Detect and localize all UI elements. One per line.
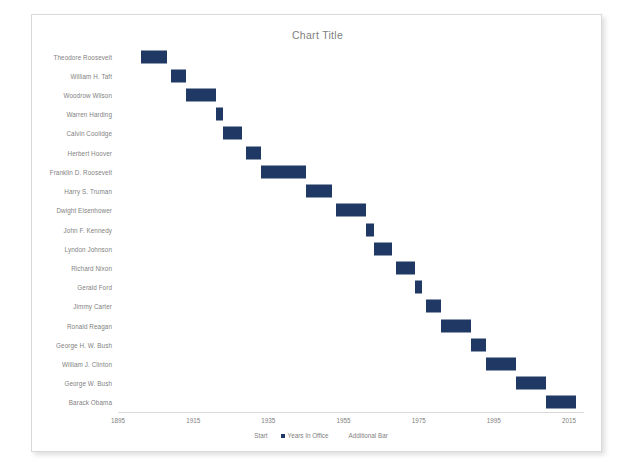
legend-swatch-icon bbox=[342, 434, 346, 438]
bar-years-in-office[interactable] bbox=[366, 223, 374, 236]
bar-years-in-office[interactable] bbox=[486, 357, 516, 370]
category-label: Ronald Reagan bbox=[67, 322, 112, 329]
bar-years-in-office[interactable] bbox=[516, 377, 546, 390]
x-tick-label: 1975 bbox=[412, 417, 426, 424]
chart-container[interactable]: Chart Title Theodore RooseveltWilliam H.… bbox=[31, 14, 602, 452]
chart-title: Chart Title bbox=[32, 29, 603, 41]
x-tick-label: 1955 bbox=[336, 417, 350, 424]
category-label: Gerald Ford bbox=[77, 284, 112, 291]
x-tick-label: 1995 bbox=[487, 417, 501, 424]
category-label: John F. Kennedy bbox=[64, 226, 112, 233]
x-axis-line bbox=[118, 412, 584, 413]
bar-years-in-office[interactable] bbox=[396, 261, 415, 274]
legend-swatch-icon bbox=[281, 434, 285, 438]
category-label: Calvin Coolidge bbox=[66, 130, 112, 137]
chart-legend[interactable]: StartYears In OfficeAdditional Bar bbox=[32, 432, 603, 439]
category-label: Lyndon Johnson bbox=[65, 245, 112, 252]
category-label: Herbert Hoover bbox=[68, 149, 112, 156]
bar-years-in-office[interactable] bbox=[336, 204, 366, 217]
bar-years-in-office[interactable] bbox=[415, 281, 423, 294]
bar-years-in-office[interactable] bbox=[171, 69, 186, 82]
bar-years-in-office[interactable] bbox=[546, 396, 576, 409]
bar-years-in-office[interactable] bbox=[246, 146, 261, 159]
category-label: Warren Harding bbox=[66, 111, 112, 118]
category-label: George H. W. Bush bbox=[56, 341, 112, 348]
legend-item[interactable]: Additional Bar bbox=[342, 432, 388, 439]
category-label: Woodrow Wilson bbox=[63, 92, 112, 99]
legend-swatch-icon bbox=[247, 434, 251, 438]
category-label: Dwight Eisenhower bbox=[56, 207, 112, 214]
category-label: Jimmy Carter bbox=[73, 303, 112, 310]
category-label: William J. Clinton bbox=[62, 360, 112, 367]
category-label: Harry S. Truman bbox=[64, 188, 112, 195]
x-tick-label: 1895 bbox=[111, 417, 125, 424]
bar-years-in-office[interactable] bbox=[141, 50, 167, 63]
category-label: George W. Bush bbox=[64, 380, 112, 387]
legend-item[interactable]: Start bbox=[247, 432, 267, 439]
plot-area: Theodore RooseveltWilliam H. TaftWoodrow… bbox=[118, 47, 584, 412]
x-tick-label: 2015 bbox=[562, 417, 576, 424]
x-tick-label: 1935 bbox=[261, 417, 275, 424]
legend-label: Start bbox=[254, 432, 267, 439]
bar-years-in-office[interactable] bbox=[306, 185, 332, 198]
bar-years-in-office[interactable] bbox=[426, 300, 441, 313]
bar-years-in-office[interactable] bbox=[441, 319, 471, 332]
bar-years-in-office[interactable] bbox=[186, 89, 216, 102]
category-label: Franklin D. Roosevelt bbox=[50, 168, 112, 175]
category-label: William H. Taft bbox=[70, 72, 112, 79]
category-label: Theodore Roosevelt bbox=[53, 53, 112, 60]
legend-label: Years In Office bbox=[288, 432, 329, 439]
category-label: Richard Nixon bbox=[71, 264, 112, 271]
bar-years-in-office[interactable] bbox=[261, 165, 306, 178]
legend-label: Additional Bar bbox=[349, 432, 388, 439]
bar-years-in-office[interactable] bbox=[471, 338, 486, 351]
x-tick-label: 1915 bbox=[186, 417, 200, 424]
category-label: Barack Obama bbox=[69, 399, 112, 406]
bar-years-in-office[interactable] bbox=[374, 242, 393, 255]
bar-years-in-office[interactable] bbox=[223, 127, 242, 140]
legend-item[interactable]: Years In Office bbox=[281, 432, 329, 439]
bar-years-in-office[interactable] bbox=[216, 108, 224, 121]
